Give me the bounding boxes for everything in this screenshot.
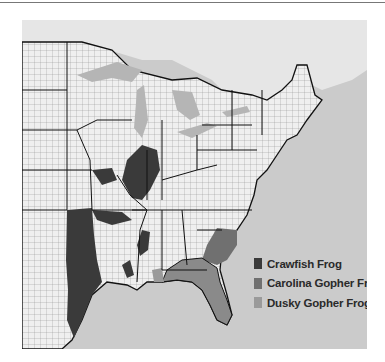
range-map: Crawfish Frog Carolina Gopher Frog Dusky…: [22, 20, 367, 349]
legend-item-carolina-gopher-frog: Carolina Gopher Frog: [254, 274, 367, 294]
legend-swatch: [254, 278, 262, 289]
legend-swatch: [254, 258, 262, 269]
legend-label: Crawfish Frog: [267, 258, 342, 270]
legend: Crawfish Frog Carolina Gopher Frog Dusky…: [254, 254, 367, 313]
legend-label: Carolina Gopher Frog: [267, 277, 367, 289]
legend-item-crawfish-frog: Crawfish Frog: [254, 254, 367, 274]
legend-label: Dusky Gopher Frog: [267, 297, 367, 309]
legend-swatch: [254, 297, 262, 308]
top-rule: [0, 2, 385, 3]
legend-item-dusky-gopher-frog: Dusky Gopher Frog: [254, 293, 367, 313]
